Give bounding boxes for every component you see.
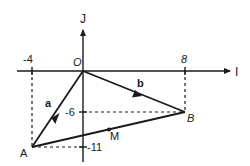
diagram-svg: J I O -4 8 -6 -11 a b A B M bbox=[0, 0, 250, 166]
vector-diagram: J I O -4 8 -6 -11 a b A B M bbox=[0, 0, 250, 166]
tick-label-x-neg4: -4 bbox=[23, 53, 33, 65]
origin-label: O bbox=[73, 56, 82, 68]
vector-a-line bbox=[32, 71, 83, 147]
point-m-label: M bbox=[110, 130, 119, 142]
y-axis-label: J bbox=[80, 12, 86, 26]
tick-label-x-8: 8 bbox=[181, 53, 188, 65]
tick-label-y-neg11: -11 bbox=[87, 141, 102, 153]
vector-b-label: b bbox=[137, 77, 144, 89]
point-b-label: B bbox=[187, 112, 194, 124]
vector-a-label: a bbox=[45, 97, 52, 109]
tick-marks bbox=[32, 67, 185, 147]
guide-lines bbox=[32, 71, 185, 147]
point-a-label: A bbox=[20, 147, 28, 159]
triangle bbox=[32, 71, 185, 147]
vector-b-line bbox=[83, 71, 185, 112]
tick-label-y-neg6: -6 bbox=[65, 106, 75, 118]
x-axis-label: I bbox=[235, 65, 238, 79]
